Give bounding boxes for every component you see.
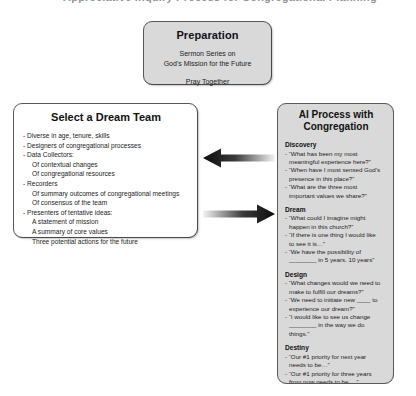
ai-question-item: - “Our #1 priority for three yearsfrom n… <box>285 370 387 384</box>
ai-question-continuation: presence in this place?” <box>285 175 387 183</box>
arrow-pointing-left-icon <box>203 147 275 169</box>
ai-question-item: - “What are the three mostimportant valu… <box>285 183 387 200</box>
ai-question-item: - “What has been my mostmeaningful exper… <box>285 150 387 167</box>
dream-team-list-item: - Presenters of tentative ideas: <box>23 208 189 218</box>
ai-section-heading: Destiny <box>285 343 387 352</box>
ai-question-lead: - “What changes would we need to <box>285 279 380 286</box>
ai-question-lead: - “When have I most sensed God’s <box>285 166 380 173</box>
dream-team-list-item: Of summary outcomes of congregational me… <box>23 189 189 199</box>
dream-team-title: Select a Dream Team <box>23 110 189 124</box>
preparation-box: Preparation Sermon Series on God's Missi… <box>143 21 272 85</box>
ai-question-lead: - “We have the possibility of <box>285 248 361 255</box>
ai-question-item: - “Our #1 priority for next yearneeds to… <box>285 353 387 370</box>
ai-question-continuation: from now needs to be …” <box>285 378 387 384</box>
ai-question-item: - “When have I most sensed God’spresence… <box>285 166 387 183</box>
ai-process-title: AI Process with Congregation <box>285 109 387 132</box>
dream-team-list-item: - Diverse in age, tenure, skills <box>23 131 189 141</box>
dream-team-list: - Diverse in age, tenure, skills- Design… <box>23 131 189 246</box>
dream-team-list-item: - Designers of congregational processes <box>23 141 189 151</box>
ai-question-continuation: important values we share?” <box>285 192 387 200</box>
preparation-line-3: Pray Together <box>150 77 265 86</box>
preparation-body: Sermon Series on God's Mission for the F… <box>150 49 265 68</box>
ai-question-continuation: ________ in 5 years. 10 years” <box>285 256 387 264</box>
ai-question-lead: - “If there is one thing I would like <box>285 231 376 238</box>
dream-team-list-item: A summary of core values <box>23 227 189 237</box>
dream-team-list-item: Of consensus of the team <box>23 198 189 208</box>
ai-question-lead: - “We need to initiate new ____ to <box>285 296 377 303</box>
ai-question-continuation: happen in this church?” <box>285 223 387 231</box>
ai-question-continuation: things.” <box>285 330 387 338</box>
preparation-line-1: Sermon Series on <box>150 49 265 59</box>
dream-team-list-item: - Recorders <box>23 179 189 189</box>
ai-question-lead: - “What could I imagine might <box>285 214 365 221</box>
ai-section-heading: Dream <box>285 205 387 214</box>
ai-section-heading: Design <box>285 270 387 279</box>
ai-question-lead: - “What has been my most <box>285 150 358 157</box>
ai-process-box: AI Process with Congregation Discovery- … <box>277 103 394 384</box>
ai-process-title-line-2: Congregation <box>285 121 387 133</box>
preparation-line-2: God's Mission for the Future <box>150 59 265 69</box>
ai-question-continuation: needs to be…” <box>285 361 387 369</box>
ai-section-design: Design- “What changes would we need toma… <box>285 270 387 338</box>
ai-section-dream: Dream- “What could I imagine mighthappen… <box>285 205 387 265</box>
ai-question-continuation: make to fulfill our dreams?” <box>285 288 387 296</box>
ai-question-item: - “I would like to see us change________… <box>285 313 387 338</box>
arrow-pointing-right-icon <box>203 203 275 225</box>
dream-team-list-item: Of contextual changes <box>23 160 189 170</box>
ai-question-lead: - “What are the three most <box>285 183 357 190</box>
clipped-header-strip: Appreciative Inquiry Process for Congreg… <box>0 0 416 7</box>
dream-team-list-item: Three potential actions for the future <box>23 237 189 247</box>
ai-question-continuation: meaningful experience here?” <box>285 158 387 166</box>
select-dream-team-box: Select a Dream Team - Diverse in age, te… <box>13 103 198 238</box>
ai-question-continuation: ________ in the way we do <box>285 321 387 329</box>
ai-question-item: - “What changes would we need tomake to … <box>285 279 387 296</box>
ai-process-sections: Discovery- “What has been my mostmeaning… <box>285 140 387 384</box>
ai-question-lead: - “Our #1 priority for next year <box>285 353 366 360</box>
ai-section-discovery: Discovery- “What has been my mostmeaning… <box>285 140 387 200</box>
ai-question-item: - “If there is one thing I would liketo … <box>285 231 387 248</box>
preparation-title: Preparation <box>150 29 265 42</box>
ai-question-item: - “We need to initiate new ____ toexperi… <box>285 296 387 313</box>
ai-question-lead: - “Our #1 priority for three years <box>285 370 372 377</box>
ai-question-lead: - “I would like to see us change <box>285 313 370 320</box>
ai-question-item: - “We have the possibility of________ in… <box>285 248 387 265</box>
ai-question-item: - “What could I imagine mighthappen in t… <box>285 214 387 231</box>
ai-process-title-line-1: AI Process with <box>285 109 387 121</box>
ai-section-destiny: Destiny- “Our #1 priority for next yearn… <box>285 343 387 384</box>
ai-question-continuation: experience our dream?” <box>285 305 387 313</box>
dream-team-list-item: A statement of mission <box>23 217 189 227</box>
ai-question-continuation: to see it is…” <box>285 240 387 248</box>
dream-team-list-item: Of congregational resources <box>23 169 189 179</box>
clipped-header-text: Appreciative Inquiry Process for Congreg… <box>60 0 380 3</box>
dream-team-list-item: - Data Collectors: <box>23 150 189 160</box>
ai-section-heading: Discovery <box>285 140 387 149</box>
